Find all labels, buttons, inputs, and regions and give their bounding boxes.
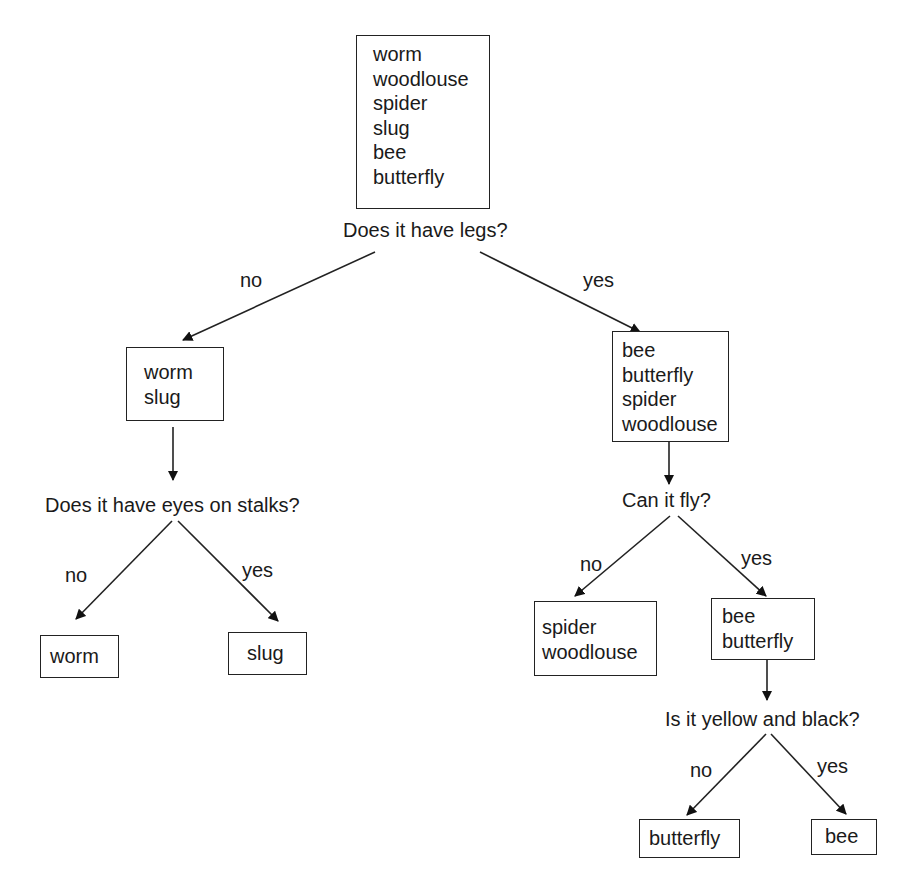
branch-label-legs-no: no [240,268,262,292]
branch-label-legs-yes: yes [583,268,614,292]
item-label: spider [622,387,728,412]
branch-label-eyes-yes: yes [242,558,273,582]
question-legs: Does it have legs? [343,218,508,242]
node-has-legs: bee butterfly spider woodlouse [612,331,729,442]
item-label: spider [542,615,656,640]
node-can-fly: bee butterfly [711,598,815,660]
node-butterfly: butterfly [639,819,740,858]
item-label: butterfly [649,826,739,851]
branch-label-yellow-yes: yes [817,754,848,778]
dichotomous-key-diagram: worm woodlouse spider slug bee butterfly… [0,0,916,890]
arrow-eyes-no [76,521,172,619]
item-label: woodlouse [542,640,656,665]
item-label: worm [373,42,489,67]
node-no-legs: worm slug [126,347,224,421]
item-label: worm [144,360,223,385]
question-can-it-fly: Can it fly? [622,488,711,512]
arrow-legs-no [183,252,375,340]
node-cannot-fly: spider woodlouse [534,601,657,676]
item-label: butterfly [722,629,814,654]
item-label: slug [247,641,306,666]
node-worm: worm [40,635,119,678]
question-yellow-and-black: Is it yellow and black? [665,707,860,731]
item-label: butterfly [622,363,728,388]
item-label: spider [373,91,489,116]
arrow-legs-yes [480,252,640,332]
branch-label-yellow-no: no [690,758,712,782]
node-bee: bee [811,819,877,855]
question-eyes-on-stalks: Does it have eyes on stalks? [45,493,300,517]
branch-label-eyes-no: no [65,563,87,587]
node-slug: slug [228,632,307,675]
item-label: bee [825,824,876,849]
item-label: worm [50,644,118,669]
item-label: slug [144,385,223,410]
item-label: woodlouse [373,67,489,92]
node-root-all-animals: worm woodlouse spider slug bee butterfly [356,35,490,209]
branch-label-fly-no: no [580,552,602,576]
item-label: woodlouse [622,412,728,437]
item-label: butterfly [373,165,489,190]
item-label: bee [373,140,489,165]
branch-label-fly-yes: yes [741,546,772,570]
item-label: bee [622,338,728,363]
item-label: bee [722,604,814,629]
item-label: slug [373,116,489,141]
